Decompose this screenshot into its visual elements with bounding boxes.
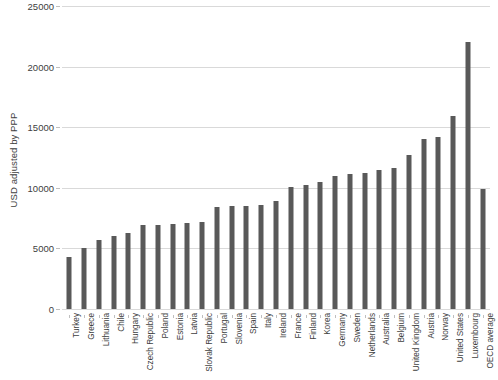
x-axis-tick-label: Slovenia — [224, 313, 239, 380]
x-axis-tick-label: Italy — [254, 313, 269, 380]
bar-slot — [121, 6, 136, 309]
x-axis-tick-label: Greece — [77, 313, 92, 380]
bar[interactable] — [362, 173, 367, 309]
bar[interactable] — [244, 206, 249, 309]
y-axis-tick-label: 0 — [8, 304, 54, 315]
x-axis-tick-label: Hungary — [121, 313, 136, 380]
bar-slot — [342, 6, 357, 309]
y-axis-tick-label: 5000 — [8, 243, 54, 254]
bar[interactable] — [480, 189, 485, 309]
x-axis-tick-label: Poland — [151, 313, 166, 380]
bar[interactable] — [82, 248, 87, 309]
x-axis-tick-label: Netherlands — [357, 313, 372, 380]
x-axis-tick-label: Belgium — [387, 313, 402, 380]
bar[interactable] — [436, 137, 441, 309]
bar-slot — [416, 6, 431, 309]
x-axis-tick-label: Spain — [239, 313, 254, 380]
x-axis-tick-label: Norway — [431, 313, 446, 380]
bar-slot — [106, 6, 121, 309]
x-axis-tick-label: United Kingdom — [401, 313, 416, 380]
bar[interactable] — [259, 205, 264, 309]
x-axis-tick-label: Czech Republic — [136, 313, 151, 380]
bar-slot — [460, 6, 475, 309]
bar[interactable] — [406, 155, 411, 309]
bar-slot — [298, 6, 313, 309]
bar-slot — [195, 6, 210, 309]
y-axis-tick-label: 20000 — [8, 61, 54, 72]
bar[interactable] — [421, 139, 426, 309]
bar-slot — [387, 6, 402, 309]
bar[interactable] — [451, 116, 456, 309]
bar[interactable] — [318, 182, 323, 309]
x-axis-tick-label: Sweden — [342, 313, 357, 380]
bar-slot — [210, 6, 225, 309]
bar-slot — [328, 6, 343, 309]
bar-slot — [475, 6, 490, 309]
y-axis-tick-mark — [56, 309, 60, 310]
y-axis-ticks: 2500020000150001000050000 — [0, 6, 54, 309]
bar[interactable] — [111, 236, 116, 309]
bar[interactable] — [67, 257, 72, 309]
x-axis-tick-label: Turkey — [62, 313, 77, 380]
x-axis-tick-label: Lithuania — [92, 313, 107, 380]
bar[interactable] — [229, 206, 234, 309]
bar-slot — [62, 6, 77, 309]
bar-slot — [269, 6, 284, 309]
x-axis-tick-label: Germany — [328, 313, 343, 380]
bar[interactable] — [96, 240, 101, 309]
y-axis-tick-mark — [56, 248, 60, 249]
bar-slot — [357, 6, 372, 309]
x-axis-tick-label: Finland — [298, 313, 313, 380]
bar-slot — [77, 6, 92, 309]
bar-slot — [431, 6, 446, 309]
bar[interactable] — [214, 207, 219, 309]
bar[interactable] — [155, 225, 160, 309]
x-axis-tick-label: Chile — [106, 313, 121, 380]
bar[interactable] — [185, 223, 190, 309]
bar[interactable] — [126, 233, 131, 309]
y-axis-tick-mark — [56, 188, 60, 189]
bar-slot — [136, 6, 151, 309]
bar-slot — [372, 6, 387, 309]
x-axis-tick-label: France — [283, 313, 298, 380]
y-axis-tick-label: 25000 — [8, 1, 54, 12]
bar-slot — [92, 6, 107, 309]
bar-slot — [313, 6, 328, 309]
x-axis-tick-label: OECD average — [475, 313, 490, 380]
y-axis-tick-mark — [56, 127, 60, 128]
bar[interactable] — [465, 42, 470, 309]
x-axis-tick-label: Australia — [372, 313, 387, 380]
bar[interactable] — [303, 185, 308, 309]
bar[interactable] — [273, 201, 278, 309]
x-axis-tick-label: Austria — [416, 313, 431, 380]
bar[interactable] — [288, 187, 293, 309]
bar-slot — [180, 6, 195, 309]
bar-chart: USD adjusted by PPP 25000200001500010000… — [0, 0, 498, 380]
bar-slot — [165, 6, 180, 309]
x-axis-tick-label: Latvia — [180, 313, 195, 380]
bar[interactable] — [141, 225, 146, 309]
bar[interactable] — [392, 168, 397, 309]
gridline — [62, 309, 490, 310]
x-axis-tick-label: Portugal — [210, 313, 225, 380]
bar-slot — [151, 6, 166, 309]
y-axis-tick-label: 15000 — [8, 122, 54, 133]
bar[interactable] — [200, 222, 205, 309]
y-axis-tick-mark — [56, 67, 60, 68]
y-axis-tick-label: 10000 — [8, 182, 54, 193]
bar[interactable] — [333, 176, 338, 309]
bar-slot — [239, 6, 254, 309]
bar[interactable] — [170, 224, 175, 309]
x-axis-tick-label-text: OECD average — [487, 313, 495, 369]
x-axis-tick-label: Slovak Republic — [195, 313, 210, 380]
x-axis-tick-label: Luxembourg — [460, 313, 475, 380]
x-axis-tick-label: Korea — [313, 313, 328, 380]
x-axis-tick-label: Ireland — [269, 313, 284, 380]
x-axis-tick-label: United States — [446, 313, 461, 380]
bar[interactable] — [377, 170, 382, 309]
bar-slot — [446, 6, 461, 309]
bar[interactable] — [347, 174, 352, 309]
bar-slot — [224, 6, 239, 309]
bar-slot — [254, 6, 269, 309]
y-axis-tick-mark — [56, 6, 60, 7]
